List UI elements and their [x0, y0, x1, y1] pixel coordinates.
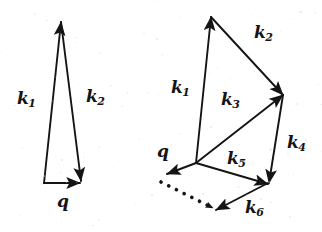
right-k2-symbol: k [254, 22, 266, 42]
right-k6-label: k6 [245, 199, 264, 218]
left-q-label: q [57, 193, 69, 210]
vector-diagram-svg [0, 0, 322, 232]
right-k2-subscript: 2 [265, 31, 273, 44]
left-k1-label: k1 [17, 90, 36, 109]
right-k3-label: k3 [221, 91, 240, 110]
right-k5-label: k5 [227, 150, 246, 169]
right-k4-label: k4 [287, 134, 306, 153]
right-k4-arrow [269, 95, 283, 183]
multiple-scattering-chain [161, 17, 283, 210]
right-k4-subscript: 4 [298, 141, 306, 154]
left-k2-symbol: k [86, 86, 98, 106]
right-k4-symbol: k [287, 132, 299, 152]
right-k1-arrow [196, 17, 211, 163]
left-q-symbol: q [57, 191, 69, 211]
right-dotted-arrow [161, 182, 213, 208]
right-k3-subscript: 3 [232, 98, 240, 111]
single-scattering-triangle [44, 22, 81, 183]
right-k6-symbol: k [245, 197, 257, 217]
right-q-arrow [167, 163, 196, 174]
left-k1-arrow [44, 22, 61, 183]
left-k2-label: k2 [86, 88, 105, 107]
right-k1-subscript: 1 [182, 86, 190, 99]
right-k2-label: k2 [254, 24, 273, 43]
figure-canvas: k1k2qk1k2k3k4k5k6q [0, 0, 322, 232]
left-k1-subscript: 1 [28, 97, 36, 110]
right-q-label: q [157, 143, 169, 160]
left-k1-symbol: k [17, 88, 29, 108]
right-k5-symbol: k [227, 148, 239, 168]
right-q-symbol: q [157, 141, 169, 161]
right-k1-symbol: k [171, 77, 183, 97]
left-k2-subscript: 2 [97, 95, 105, 108]
left-k2-arrow [61, 22, 81, 181]
right-k6-subscript: 6 [256, 206, 264, 219]
right-k3-symbol: k [221, 89, 233, 109]
right-k1-label: k1 [171, 79, 190, 98]
right-k5-subscript: 5 [238, 157, 246, 170]
